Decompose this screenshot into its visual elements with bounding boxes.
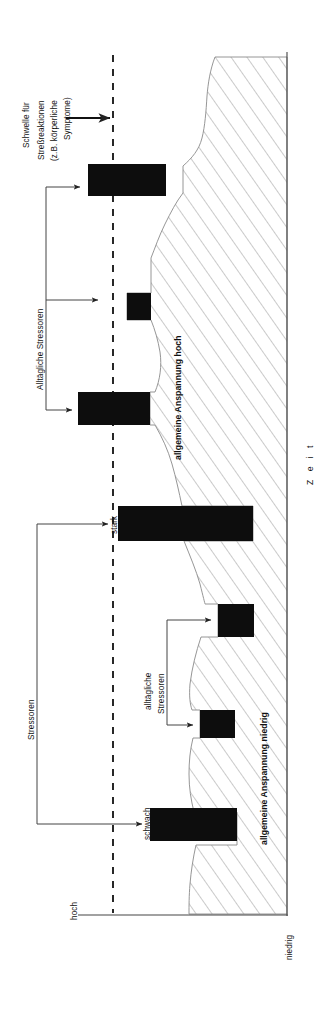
bar-daily-high-5 [78,392,150,425]
label-stark: stark [110,516,119,534]
bar-schwach [150,808,237,841]
axis-label-niedrig: niedrig [285,935,294,960]
threshold-label-line4: Symptome) [63,97,72,140]
threshold-label-line2: Streßreaktionen [37,100,46,160]
bracket-label-daily-stressors-lower-1: alltägliche [144,672,153,710]
bar-daily-low-1 [200,710,235,738]
diagram-svg [0,0,316,1013]
bracket-daily-stressors-upper [46,187,98,410]
region-label-high-tension: allgemeine Anspannung hoch [173,335,183,460]
bar-stark [118,506,253,541]
bracket-label-daily-stressors-upper: Alltägliche Stressoren [36,309,45,390]
bracket-stressors [37,524,142,824]
axis-label-hoch: hoch [70,902,79,920]
region-label-low-tension: allgemeine Anspannung niedrig [259,712,269,845]
bar-daily-high-3 [88,164,166,196]
bracket-label-stressors: Stressoren [27,699,36,740]
bracket-label-daily-stressors-lower-2: Stressoren [157,673,166,714]
axis-label-zeit: Z e i t [305,443,315,486]
bar-daily-high-4 [127,293,151,320]
bar-daily-low-2 [218,604,254,637]
label-schwach: schwach [143,807,152,840]
threshold-label-line3: (z.B. körperliche [50,100,59,161]
threshold-label-line1: Schwelle für [22,102,31,148]
diagram-canvas: Schwelle für Streßreaktionen (z.B. körpe… [0,0,316,1013]
